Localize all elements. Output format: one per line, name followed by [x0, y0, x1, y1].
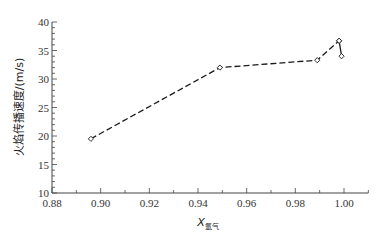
- data-point-diamond-marker: [339, 54, 344, 59]
- x-tick-label: 0.90: [91, 197, 111, 209]
- data-point-diamond-marker: [88, 136, 93, 141]
- y-axis-title: 火焰传播速度/(m/s): [12, 58, 26, 156]
- data-series: [88, 38, 344, 141]
- series-line-0: [91, 41, 339, 139]
- x-axis-title-sub: 氩气: [205, 222, 219, 231]
- y-tick-label: 20: [38, 130, 50, 142]
- y-tick-label: 30: [38, 73, 50, 85]
- line-chart: 101520253035400.880.900.920.940.960.981.…: [0, 0, 386, 237]
- x-tick-label: 0.94: [188, 197, 208, 209]
- x-axis-title: X氩气: [196, 216, 219, 231]
- x-tick-label: 0.96: [237, 197, 257, 209]
- y-tick-label: 35: [38, 45, 50, 57]
- data-point-diamond-marker: [217, 65, 222, 70]
- y-tick-label: 15: [38, 159, 50, 171]
- x-tick-label: 0.92: [140, 197, 159, 209]
- y-tick-label: 40: [38, 16, 50, 28]
- x-tick-label: 0.98: [286, 197, 306, 209]
- x-tick-label: 0.88: [42, 197, 62, 209]
- x-tick-label: 1.00: [334, 197, 354, 209]
- y-tick-label: 25: [38, 102, 50, 114]
- axes: 101520253035400.880.900.920.940.960.981.…: [38, 16, 368, 209]
